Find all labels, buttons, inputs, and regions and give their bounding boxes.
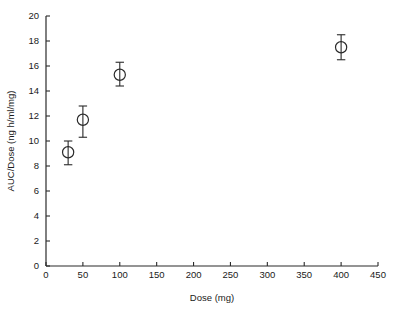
x-tick-label: 400: [333, 269, 349, 280]
data-point: [63, 141, 74, 165]
y-tick-label: 0: [34, 260, 39, 271]
y-tick-label: 8: [34, 160, 39, 171]
x-tick-label: 450: [370, 269, 386, 280]
data-points-layer: [63, 35, 347, 165]
y-tick-label: 20: [28, 10, 39, 21]
y-tick-label: 16: [28, 60, 39, 71]
x-tick-label: 150: [149, 269, 165, 280]
x-tick-label: 350: [296, 269, 312, 280]
y-tick-label: 14: [28, 85, 39, 96]
axes-group: [46, 16, 378, 266]
y-tick-label: 4: [34, 210, 39, 221]
x-axis-title: Dose (mg): [190, 292, 234, 303]
scatter-plot: 050100150200250300350400450 024681012141…: [0, 0, 404, 319]
y-axis-title: AUC/Dose (ng h/ml/mg): [5, 91, 16, 192]
data-point: [114, 62, 125, 86]
y-tick-label: 6: [34, 185, 39, 196]
x-tick-label: 200: [186, 269, 202, 280]
data-point: [77, 106, 88, 137]
y-tick-label: 2: [34, 235, 39, 246]
chart-figure: 050100150200250300350400450 024681012141…: [0, 0, 404, 319]
data-point: [336, 35, 347, 60]
x-tick-label: 300: [259, 269, 275, 280]
x-tick-label: 50: [78, 269, 89, 280]
x-axis-tick-labels: 050100150200250300350400450: [43, 269, 386, 280]
y-axis-tick-labels: 02468101214161820: [28, 10, 39, 271]
y-tick-label: 18: [28, 35, 39, 46]
x-tick-label: 250: [223, 269, 239, 280]
x-tick-label: 0: [43, 269, 48, 280]
x-tick-label: 100: [112, 269, 128, 280]
y-tick-label: 10: [28, 135, 39, 146]
y-tick-label: 12: [28, 110, 39, 121]
